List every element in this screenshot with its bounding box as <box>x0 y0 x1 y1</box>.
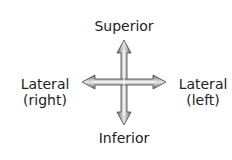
label-lateral-right-line1: Lateral <box>14 76 76 92</box>
label-lateral-left-line1: Lateral <box>172 76 232 92</box>
label-lateral-left-line2: (left) <box>172 92 232 108</box>
label-lateral-left: Lateral (left) <box>172 76 232 108</box>
label-lateral-right-line2: (right) <box>14 92 76 108</box>
label-lateral-right: Lateral (right) <box>14 76 76 108</box>
label-inferior: Inferior <box>94 130 154 146</box>
label-superior: Superior <box>92 18 156 34</box>
